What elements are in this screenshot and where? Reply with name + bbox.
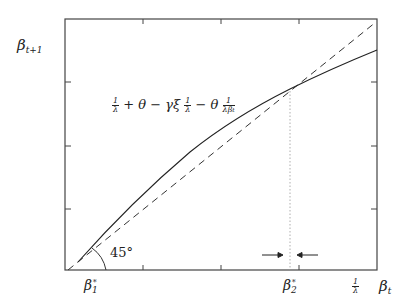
map-curve (78, 50, 377, 262)
beta1-star-label: β1* (84, 277, 97, 295)
x-ticks (143, 19, 299, 270)
angle-label: 45° (110, 245, 133, 260)
angle-arc (92, 248, 106, 270)
45-degree-line (68, 22, 376, 270)
curve-formula-label: 1λ + θ − γξ 1λ − θ 1λβt (112, 97, 235, 114)
plot-frame (65, 19, 377, 270)
inverse-lambda-label: 1λ (352, 276, 359, 295)
x-axis-label: βt (379, 277, 391, 296)
y-axis-label: βt+1 (17, 36, 43, 55)
phase-diagram (0, 0, 405, 306)
beta2-star-label: β2* (283, 277, 296, 295)
